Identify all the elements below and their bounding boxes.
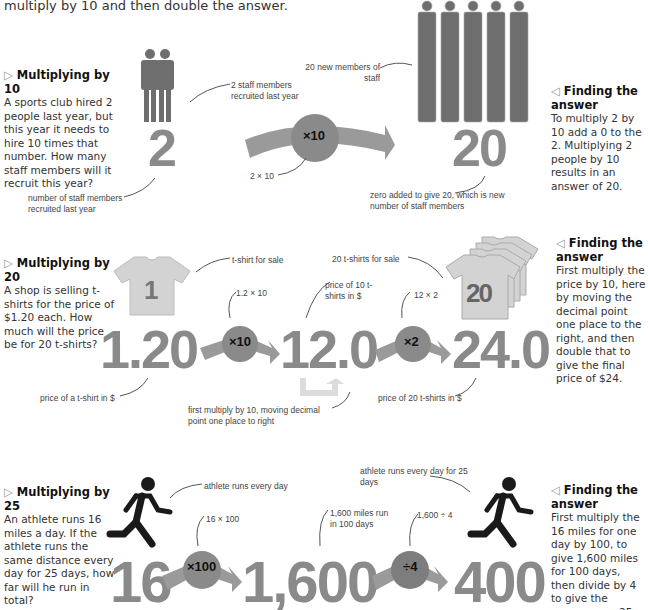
pointer-arrows bbox=[0, 0, 648, 610]
